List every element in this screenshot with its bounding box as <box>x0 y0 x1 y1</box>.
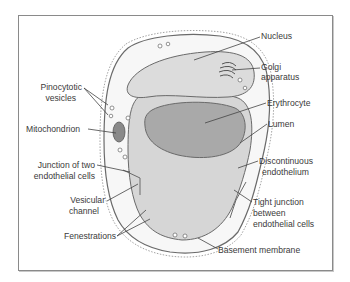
label-tight-junction-3: endothelial cells <box>253 219 314 229</box>
label-junction: Junction of two <box>20 160 95 170</box>
label-lumen: Lumen <box>268 119 294 129</box>
label-pinocytotic-2: vesicles <box>20 93 76 103</box>
label-discontinuous-2: endothelium <box>262 167 309 177</box>
label-discontinuous: Discontinuous <box>259 156 313 166</box>
label-tight-junction: Tight junction <box>253 197 304 207</box>
label-vesicular: Vesicular <box>20 195 105 205</box>
label-tight-junction-2: between <box>253 208 286 218</box>
label-basement-membrane: Basement membrane <box>218 245 300 255</box>
mitochondrion <box>113 122 125 142</box>
label-mitochondrion: Mitochondrion <box>26 124 80 134</box>
label-pinocytotic: Pinocytotic <box>20 82 82 92</box>
label-erythrocyte: Erythrocyte <box>267 98 310 108</box>
label-fenestrations: Fenestrations <box>20 231 116 241</box>
label-golgi: Golgi <box>261 62 281 72</box>
label-junction-2: endothelial cells <box>20 171 95 181</box>
label-vesicular-2: channel <box>20 206 99 216</box>
label-nucleus: Nucleus <box>261 31 292 41</box>
label-golgi-2: apparatus <box>261 72 299 82</box>
